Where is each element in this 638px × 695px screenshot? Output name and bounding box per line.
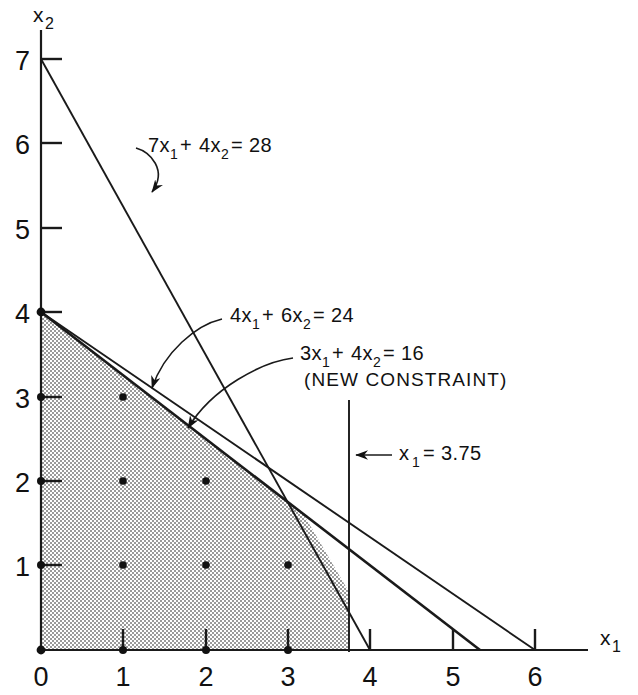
- y-tick-label-6: 6: [15, 130, 30, 160]
- x-tick-label-1: 1: [115, 662, 130, 692]
- y-tick-label-2: 2: [15, 468, 30, 498]
- x-tick-label-5: 5: [445, 662, 460, 692]
- svg-text:= 3.75: = 3.75: [423, 442, 482, 464]
- svg-text:2: 2: [373, 354, 381, 370]
- leader-line-4x1-6x2-24: [152, 319, 222, 388]
- svg-text:2: 2: [45, 15, 54, 32]
- svg-text:1: 1: [612, 638, 621, 655]
- svg-text:1: 1: [322, 354, 330, 370]
- new-constraint-note: (NEW CONSTRAINT): [304, 369, 507, 390]
- svg-text:1: 1: [412, 454, 420, 470]
- feasible-region-figure: 7 6 5 4 3 2 1 0 1 2 3 4 5 6 x 2 x 1 7x 1…: [0, 0, 638, 695]
- x-tick-label-3: 3: [280, 662, 295, 692]
- y-tick-label-3: 3: [15, 384, 30, 414]
- y-tick-label-1: 1: [15, 552, 30, 582]
- svg-text:+: +: [262, 304, 274, 326]
- svg-text:6x: 6x: [281, 304, 303, 326]
- annotation-x1-3p75: x 1 = 3.75: [399, 442, 482, 470]
- svg-text:x: x: [33, 3, 44, 26]
- x-tick-label-4: 4: [362, 662, 377, 692]
- svg-text:= 24: = 24: [313, 304, 354, 326]
- y-tick-label-7: 7: [15, 46, 30, 76]
- svg-text:= 28: = 28: [231, 134, 272, 156]
- x-axis-label: x 1: [600, 626, 621, 655]
- svg-text:4x: 4x: [351, 342, 373, 364]
- x-tick-label-6: 6: [527, 662, 542, 692]
- x-tick-label-0: 0: [33, 662, 48, 692]
- y-axis-label: x 2: [33, 3, 54, 32]
- svg-text:2: 2: [221, 146, 229, 162]
- svg-text:1: 1: [252, 316, 260, 332]
- svg-text:2: 2: [303, 316, 311, 332]
- svg-text:4x: 4x: [199, 134, 221, 156]
- svg-text:x: x: [600, 626, 611, 649]
- annotation-3x1-4x2-16: 3x 1 + 4x 2 = 16 (NEW CONSTRAINT): [300, 342, 507, 390]
- svg-text:+: +: [180, 134, 192, 156]
- y-tick-label-5: 5: [15, 215, 30, 245]
- y-tick-label-4: 4: [15, 299, 30, 329]
- svg-text:x: x: [399, 442, 409, 464]
- svg-text:+: +: [332, 342, 344, 364]
- x-tick-label-2: 2: [198, 662, 213, 692]
- plot-canvas: 7 6 5 4 3 2 1 0 1 2 3 4 5 6 x 2 x 1 7x 1…: [0, 0, 638, 695]
- svg-text:1: 1: [170, 146, 178, 162]
- annotation-7x1-4x2-28: 7x 1 + 4x 2 = 28: [148, 134, 272, 162]
- svg-text:3x: 3x: [300, 342, 322, 364]
- annotation-4x1-6x2-24: 4x 1 + 6x 2 = 24: [230, 304, 354, 332]
- svg-text:= 16: = 16: [383, 342, 424, 364]
- svg-text:7x: 7x: [148, 134, 170, 156]
- svg-text:4x: 4x: [230, 304, 252, 326]
